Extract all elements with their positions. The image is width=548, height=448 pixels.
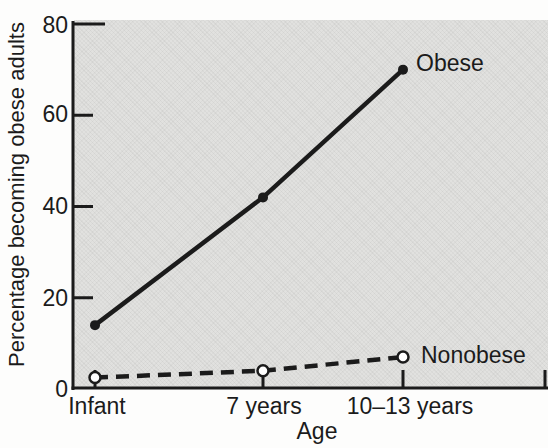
x-axis-title: Age (277, 419, 357, 443)
series-label-obese: Obese (416, 51, 484, 75)
obesity-line-chart-figure: 80 60 40 20 0 Infant 7 years 10–13 years… (0, 0, 548, 448)
x-tick-label-10-13-years: 10–13 years (330, 395, 490, 417)
x-tick-label-7-years: 7 years (204, 395, 324, 417)
y-axis-title: Percentage becoming obese adults (4, 37, 30, 367)
series-label-nonobese: Nonobese (421, 343, 526, 367)
x-tick-label-infant: Infant (37, 395, 157, 417)
